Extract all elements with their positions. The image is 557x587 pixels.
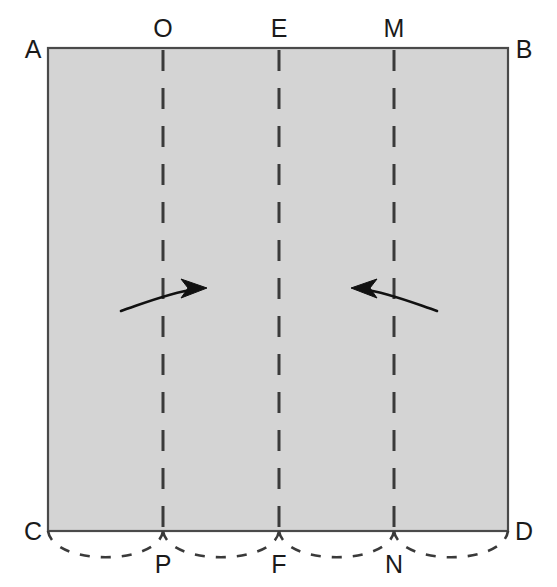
corner-label-C: C	[24, 517, 42, 545]
fold-label-F: F	[271, 550, 286, 578]
fold-label-O: O	[153, 14, 172, 42]
arc-P-F	[163, 531, 279, 557]
folding-diagram: A B C D O E M P F N	[0, 0, 557, 587]
corner-label-A: A	[25, 35, 42, 63]
corner-label-D: D	[515, 517, 533, 545]
arc-N-D	[394, 531, 508, 557]
fold-label-N: N	[385, 550, 403, 578]
diagram-canvas: A B C D O E M P F N	[0, 0, 557, 587]
fold-label-M: M	[384, 14, 405, 42]
fold-label-E: E	[271, 14, 288, 42]
arc-F-N	[279, 531, 394, 557]
corner-label-B: B	[516, 35, 533, 63]
fold-label-P: P	[155, 550, 172, 578]
arc-C-P	[48, 531, 163, 557]
